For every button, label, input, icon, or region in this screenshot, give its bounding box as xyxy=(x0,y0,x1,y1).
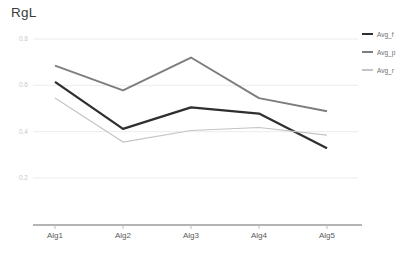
series-line-Avg_r xyxy=(55,98,327,142)
x-axis-tick-label-Alg1: Alg1 xyxy=(30,231,80,240)
legend-swatch-icon xyxy=(362,69,373,71)
legend-swatch-icon xyxy=(362,33,373,35)
legend-label: Avg_r xyxy=(377,67,394,74)
y-axis-tick-label: 0.6 xyxy=(6,81,28,88)
x-axis-tick-label-Alg3: Alg3 xyxy=(166,231,216,240)
series-line-Avg_f xyxy=(55,82,327,148)
legend-item-Avg_r[interactable]: Avg_r xyxy=(362,62,395,78)
y-axis-tick-label: 0.4 xyxy=(6,128,28,135)
series-lines xyxy=(55,58,327,149)
plot-area xyxy=(0,0,412,259)
x-axis-tick-label-Alg2: Alg2 xyxy=(98,231,148,240)
chart-legend: Avg_fAvg_pAvg_r xyxy=(362,26,395,80)
legend-item-Avg_p[interactable]: Avg_p xyxy=(362,44,395,60)
legend-label: Avg_p xyxy=(377,49,395,56)
legend-swatch-icon xyxy=(362,51,373,53)
x-axis-tick-marks xyxy=(55,225,327,229)
line-chart: RgL 0.80.60.40.2 Alg1Alg2Alg3Alg4Alg5 Av… xyxy=(0,0,412,259)
y-axis-tick-label: 0.2 xyxy=(6,174,28,181)
y-axis-tick-label: 0.8 xyxy=(6,35,28,42)
x-axis-tick-label-Alg4: Alg4 xyxy=(234,231,284,240)
series-line-Avg_p xyxy=(55,58,327,112)
legend-item-Avg_f[interactable]: Avg_f xyxy=(362,26,395,42)
legend-label: Avg_f xyxy=(377,31,394,38)
x-axis-tick-label-Alg5: Alg5 xyxy=(302,231,352,240)
